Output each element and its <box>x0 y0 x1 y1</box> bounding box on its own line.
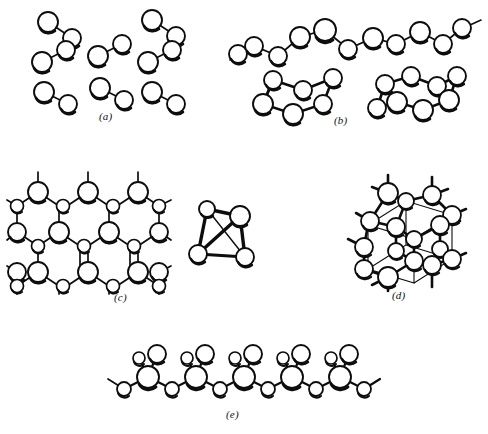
panel-label-c: (c) <box>114 291 127 303</box>
network-atoms <box>355 183 461 288</box>
panel-c-layer-structure <box>5 170 185 295</box>
tetrahedral-molecule <box>185 195 265 275</box>
panel-c-drawing <box>5 170 185 295</box>
panel-e-drawing <box>95 340 395 410</box>
ring-eight-membered <box>368 67 466 121</box>
figure-canvas: (a) <box>0 0 488 434</box>
panel-label-e: (e) <box>226 408 239 420</box>
panel-b-chains-and-rings <box>225 0 488 130</box>
hex-lattice-large-atoms <box>8 182 168 283</box>
panel-b-drawing <box>225 0 488 130</box>
panel-e-polymer-chain <box>95 340 395 410</box>
polymer-pendant-atoms <box>133 345 358 366</box>
panel-label-a: (a) <box>99 110 112 122</box>
panel-d-three-dimensional-network <box>340 165 480 295</box>
panel-label-d: (d) <box>392 289 405 301</box>
molecule-group <box>32 10 185 114</box>
panel-d-drawing <box>340 165 480 295</box>
ring-six-membered <box>253 69 342 125</box>
panel-label-b: (b) <box>334 114 347 126</box>
tetrahedron-drawing <box>185 195 265 275</box>
chain-group <box>229 19 481 66</box>
